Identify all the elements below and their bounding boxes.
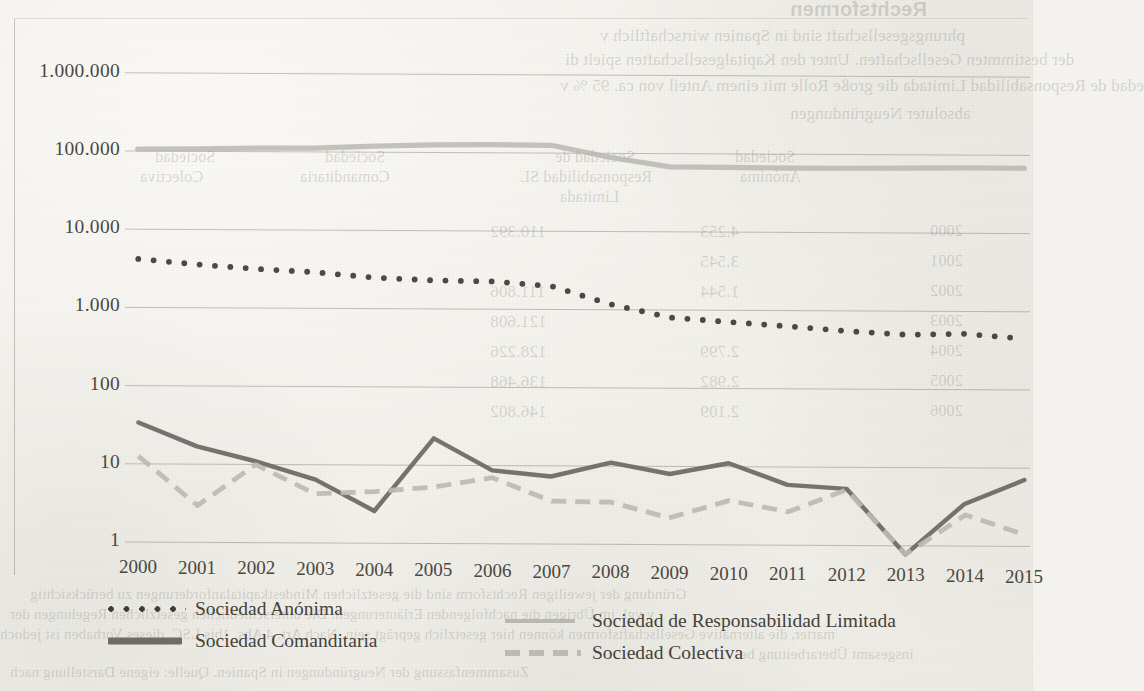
legend-item[interactable]: Sociedad Anónima bbox=[108, 598, 343, 620]
solid-line-swatch bbox=[108, 634, 186, 648]
series-sociedad-comanditaria bbox=[138, 422, 1024, 554]
y-axis-tick-label: 100 bbox=[90, 373, 120, 395]
x-axis-tick-label: 2000 bbox=[108, 556, 168, 578]
gridline bbox=[125, 307, 1030, 311]
legend-item-label: Sociedad Colectiva bbox=[592, 642, 743, 664]
x-axis-tick-label: 2008 bbox=[581, 561, 641, 583]
gridline bbox=[125, 386, 1030, 390]
gridline bbox=[125, 73, 1030, 77]
y-axis-tick-label: 10.000 bbox=[65, 216, 120, 238]
x-axis-tick-label: 2011 bbox=[758, 563, 818, 585]
x-axis-tick-label: 2005 bbox=[403, 559, 463, 581]
x-axis-tick-label: 2004 bbox=[344, 559, 404, 581]
legend-item-label: Sociedad de Responsabilidad Limitada bbox=[592, 610, 896, 632]
legend-item-label: Sociedad Anónima bbox=[195, 598, 343, 620]
x-axis-tick-label: 2003 bbox=[285, 558, 345, 580]
legend-item-label: Sociedad Comanditaria bbox=[195, 630, 378, 652]
x-axis-tick-label: 2013 bbox=[876, 564, 936, 586]
chart-legend: Sociedad AnónimaSociedad de Responsabili… bbox=[0, 596, 1033, 672]
y-axis-tick-label: 1.000 bbox=[75, 294, 120, 316]
dashed-line-swatch bbox=[505, 646, 583, 660]
x-axis-tick-label: 2010 bbox=[699, 563, 759, 585]
legend-item[interactable]: Sociedad Comanditaria bbox=[108, 630, 378, 652]
x-axis-tick-label: 2014 bbox=[935, 565, 995, 587]
dotted-line-swatch bbox=[108, 602, 186, 616]
y-axis-tick-label: 1 bbox=[110, 529, 120, 551]
y-axis-tick-label: 1.000.000 bbox=[39, 60, 120, 82]
x-axis-tick-label: 2002 bbox=[226, 557, 286, 579]
x-axis-tick-label: 2015 bbox=[994, 566, 1054, 588]
x-axis-tick-label: 2006 bbox=[462, 560, 522, 582]
legend-item[interactable]: Sociedad de Responsabilidad Limitada bbox=[505, 610, 896, 632]
series-sociedad-anonima bbox=[135, 256, 1013, 340]
gridline bbox=[125, 229, 1030, 233]
x-axis-tick-label: 2007 bbox=[521, 561, 581, 583]
legend-item[interactable]: Sociedad Colectiva bbox=[505, 642, 743, 664]
y-axis-tick-label: 10 bbox=[100, 451, 120, 473]
x-axis-tick-label: 2009 bbox=[640, 562, 700, 584]
x-axis-tick-label: 2012 bbox=[817, 564, 877, 586]
light-solid-line-swatch bbox=[505, 614, 583, 628]
x-axis-tick-label: 2001 bbox=[167, 557, 227, 579]
series-sociedad-responsabilidad-limitada bbox=[138, 145, 1025, 169]
y-axis-tick-label: 100.000 bbox=[55, 138, 120, 160]
